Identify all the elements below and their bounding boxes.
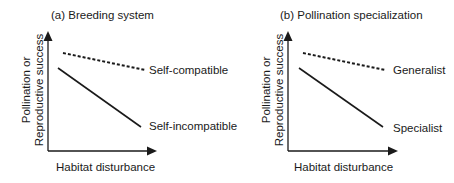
y-label-line-2: Reproductive success (33, 25, 46, 155)
generalist-line (303, 53, 385, 70)
generalist-label: Generalist (393, 64, 445, 76)
panel-a-title: (a) Breeding system (51, 9, 154, 21)
panel-a-breeding-system: (a) Breeding system Pollination or Repro… (0, 0, 227, 183)
panel-b-title: (b) Pollination specialization (280, 9, 423, 21)
panel-b-pollination-specialization: (b) Pollination specialization Pollinati… (227, 0, 454, 183)
self-incompatible-line (58, 68, 141, 127)
specialist-label: Specialist (393, 122, 442, 134)
self-compatible-label: Self-compatible (149, 64, 228, 76)
self-incompatible-label: Self-incompatible (149, 120, 237, 132)
panel-a-y-axis-label: Pollination or Reproductive success (20, 25, 46, 155)
x-axis-arrow-icon (147, 147, 157, 156)
x-axis-arrow-icon (388, 147, 398, 156)
specialist-line (299, 68, 383, 127)
panel-b-y-axis-label: Pollination or Reproductive success (260, 25, 286, 155)
self-compatible-line (63, 53, 145, 70)
y-label-line-1: Pollination or (20, 25, 33, 155)
y-label-line-1: Pollination or (260, 25, 273, 155)
panel-b-x-axis-label: Habitat disturbance (294, 161, 393, 173)
panel-a-x-axis-label: Habitat disturbance (56, 161, 155, 173)
y-label-line-2: Reproductive success (273, 25, 286, 155)
